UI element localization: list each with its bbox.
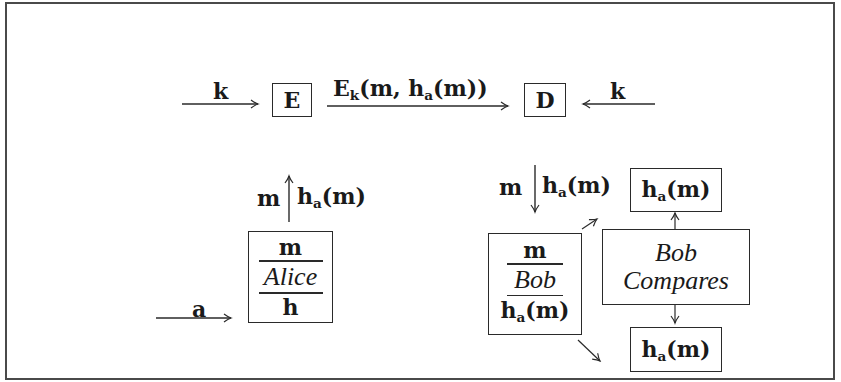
- hash-bottom-box: ha(m): [630, 327, 722, 372]
- hash-top-h: h: [642, 176, 658, 202]
- bob-down-left-label: m: [499, 176, 522, 198]
- bob-down-right-label: ha(m): [542, 174, 611, 199]
- decrypt-label: D: [535, 87, 554, 113]
- ciphertext-args: (m, h: [359, 75, 424, 101]
- bob-a-sub: a: [558, 184, 567, 200]
- alice-bottom-h: h: [283, 296, 299, 318]
- alice-m-paren: (m): [322, 183, 366, 209]
- ciphertext-E: E: [333, 75, 350, 101]
- alice-up-left-label: m: [257, 187, 280, 209]
- arrow-bob-to-hash-top: [582, 219, 597, 229]
- alice-a-sub: a: [313, 195, 322, 211]
- alice-box: m Alice h: [248, 231, 333, 323]
- bob-m-paren: (m): [567, 172, 611, 198]
- bob-h: h: [542, 172, 558, 198]
- bob-box: m Bob ha(m): [488, 233, 582, 335]
- encrypt-box: E: [272, 83, 312, 117]
- ciphertext-end: (m)): [433, 75, 488, 101]
- hash-top-m-paren: (m): [666, 176, 710, 202]
- alice-h: h: [297, 183, 313, 209]
- compare-line1: Bob: [655, 239, 697, 267]
- hash-bottom-h: h: [642, 336, 658, 362]
- hash-top-box: ha(m): [630, 168, 722, 212]
- key-label-left: k: [213, 80, 228, 102]
- decrypt-box: D: [524, 83, 566, 117]
- arrow-bob-to-hash-bottom: [578, 340, 600, 361]
- bob-name: Bob: [514, 267, 556, 293]
- alice-name: Alice: [264, 264, 317, 290]
- bob-compares-box: Bob Compares: [602, 229, 750, 305]
- hash-top-label: ha(m): [642, 176, 711, 204]
- input-a-label: a: [192, 298, 206, 320]
- ciphertext-k-sub: k: [350, 87, 359, 103]
- alice-top-m: m: [279, 236, 302, 258]
- alice-up-right-label: ha(m): [297, 185, 366, 210]
- ciphertext-label: Ek(m, ha(m)): [333, 77, 488, 102]
- compare-line2: Compares: [623, 267, 729, 295]
- bob-bottom-hash: ha(m): [501, 298, 570, 329]
- key-label-right: k: [610, 80, 625, 102]
- hash-bottom-label: ha(m): [642, 336, 711, 364]
- ciphertext-a-sub: a: [424, 87, 433, 103]
- hash-bottom-m-paren: (m): [666, 336, 710, 362]
- bob-box-h: h: [501, 297, 517, 323]
- bob-top-m: m: [523, 239, 546, 261]
- bob-box-m-paren: (m): [525, 297, 569, 323]
- bob-rule-bottom: [507, 295, 563, 297]
- encrypt-label: E: [284, 87, 301, 113]
